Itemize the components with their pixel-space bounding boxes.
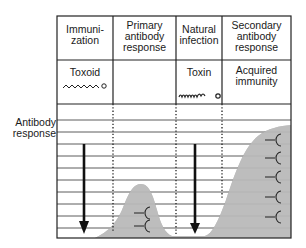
y-axis-label: Antibody response (0, 117, 56, 139)
header-line: infection (176, 35, 222, 46)
toxoid-chain-icon (63, 84, 106, 88)
header-line: response (222, 42, 291, 53)
agent-label-acquired-immunity: Acquired immunity (222, 65, 291, 87)
infection-arrow (190, 144, 200, 234)
agent-label-toxoid: Toxoid (57, 67, 113, 78)
header-line: zation (57, 35, 113, 46)
column-header-primary: Primary antibody response (113, 20, 176, 53)
header-line: response (113, 42, 176, 53)
column-header-immunization: Immuni- zation (57, 24, 113, 46)
label-line: response (0, 128, 56, 139)
column-header-natural-infection: Natural infection (176, 24, 222, 46)
immunization-arrow (79, 144, 89, 234)
agent-label-toxin: Toxin (176, 67, 222, 78)
label-line: immunity (222, 76, 291, 87)
toxin-chain-icon (179, 94, 220, 98)
column-header-secondary: Secondary antibody response (222, 20, 291, 53)
